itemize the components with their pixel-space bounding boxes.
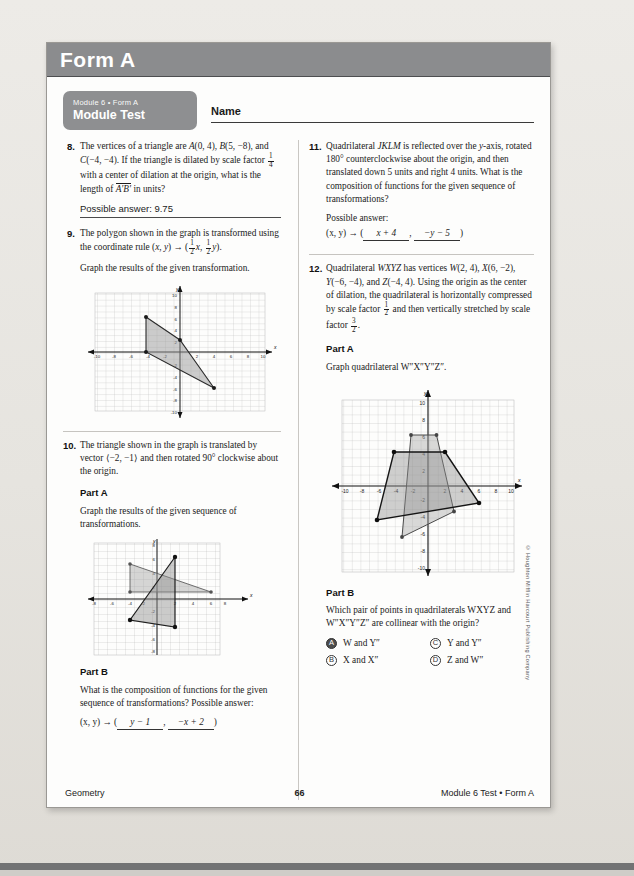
q8-l3a: factor [243,156,267,166]
right-column: 11. Quadrilateral JKLM is reflected over… [306,140,534,800]
question-11-number: 11. [309,140,326,247]
q11-answer-blank-1[interactable]: x + 4 [363,227,409,241]
svg-text:-6: -6 [377,488,382,494]
svg-text:10: 10 [172,293,177,298]
column-divider [298,140,299,800]
graph-question-9[interactable]: x y -10-8-6 -4-2 246 810 [80,282,281,422]
svg-text:10: 10 [508,488,514,494]
svg-text:-8: -8 [151,649,155,654]
question-10-text: The triangle shown in the graph is trans… [80,439,281,479]
svg-text:-10: -10 [418,565,425,571]
name-input[interactable] [211,122,534,123]
q9-l1: The polygon shown in the graph is transf… [80,228,256,238]
question-12-number: 12. [309,262,326,671]
bottom-band-light [0,870,634,876]
svg-text:-4: -4 [128,601,132,606]
choice-C-label: Y and Y″ [447,637,482,650]
q8-l2a: and [255,141,268,151]
q8-l1a: The vertices of a triangle are [80,141,189,151]
copyright-notice: © Houghton Mifflin Harcourt Publishing C… [525,545,531,680]
q9-l2c: ). [216,243,221,253]
q10-answer-blank-1[interactable]: y − 1 [117,716,163,730]
q8-Cc: (−4, −4). If the triangle is dilated by … [86,156,241,166]
form-header-bar: Form A [47,43,550,77]
question-12-partB-label: Part B [326,586,534,599]
q10-l1: The triangle shown in the graph is trans… [80,440,257,450]
name-label: Name [211,105,241,117]
q10-pb1: What is the composition of functions for… [80,685,267,695]
q10-l2: vector ⟨−2, −1⟩ and then rotated 90° clo… [80,453,255,463]
svg-text:8: 8 [495,488,498,494]
q8-frac-den: 4 [268,162,274,170]
svg-text:-4: -4 [146,354,150,359]
q12-frac-1: 12 [384,302,390,318]
g10-x-label: x [249,592,253,598]
svg-text:-10: -10 [341,488,348,494]
q12-l5b: . [358,320,360,330]
q12-Yc: (−6, −4), and [331,277,382,287]
q11-jklm: JKLM [377,141,400,151]
question-12: 12. Quadrilateral WXYZ has vertices W(2,… [309,262,534,671]
question-9-number: 9. [63,227,80,424]
question-12-partB-text: Which pair of points in quadrilaterals W… [326,604,534,630]
question-8-number: 8. [63,140,80,220]
question-8-answer[interactable]: Possible answer: 9.75 [80,202,281,218]
choice-A[interactable]: A W and Y″ [326,637,430,650]
question-10-partB-label: Part B [80,665,281,678]
q11-rule-prefix: (x, y) → ( [326,228,363,238]
choice-C[interactable]: C Y and Y″ [430,637,534,650]
page-background: Form A Module 6 • Form A Module Test Nam… [0,0,634,876]
question-9: 9. The polygon shown in the graph is tra… [63,227,281,424]
svg-text:-6: -6 [129,354,133,359]
q11-l1a: Quadrilateral [326,141,377,151]
q11-answer-blank-2[interactable]: −y − 5 [414,227,460,241]
choice-B-label: X and X″ [343,654,378,667]
graph-question-12[interactable]: x y -10-8-6 -4-2 246 810 [326,380,534,578]
form-title: Form A [60,48,136,72]
q10-pa2: transformations. [80,519,141,529]
footer-subject: Geometry [65,788,220,798]
q10-answer-blank-2[interactable]: −x + 2 [168,716,214,730]
choice-C-bubble[interactable]: C [430,638,441,649]
question-8-text: The vertices of a triangle are A(0, 4), … [80,140,281,196]
two-column-layout: 8. The vertices of a triangle are A(0, 4… [63,140,534,800]
question-10-partB-text: What is the composition of functions for… [80,684,281,710]
q12-f1d: 2 [384,310,390,318]
q8-fraction: 14 [268,153,274,169]
choice-B[interactable]: B X and X″ [326,654,430,667]
q12-Xc: (6, −2), [488,263,516,273]
q8-l3b: with a center of dilation at the origin, [80,170,218,180]
worksheet-page: Form A Module 6 • Form A Module Test Nam… [46,42,551,808]
choice-A-bubble[interactable]: A [326,638,337,649]
page-footer: Geometry 66 Module 6 Test • Form A [47,778,552,808]
question-10-body: The triangle shown in the graph is trans… [80,439,281,736]
module-badge-subtitle: Module 6 • Form A [73,98,187,107]
q8-l4b: in units? [131,184,165,194]
svg-text:8: 8 [224,601,227,606]
q11-l1c: -axis, [483,141,503,151]
question-10-partA-label: Part A [80,486,281,499]
q12-pb1: Which pair of points in quadrilaterals W… [326,605,511,615]
svg-text:10: 10 [420,400,426,406]
choice-D-bubble[interactable]: D [430,655,441,666]
graph-question-10[interactable]: x y -8-6-4-2 2468 8642 -2-4-6-8 [80,537,281,657]
question-9-body: The polygon shown in the graph is transf… [80,227,281,424]
q12-l1a: Quadrilateral [326,263,377,273]
q9-frac-x: 12 [189,240,195,256]
choice-D[interactable]: D Z and W″ [430,654,534,667]
choice-B-bubble[interactable]: B [326,655,337,666]
question-12-partA-label: Part A [326,342,534,355]
svg-text:6: 6 [478,488,481,494]
question-10-rule: (x, y) → (y − 1, −x + 2) [80,716,281,730]
g12-x-label: x [517,477,521,483]
question-9-text: The polygon shown in the graph is transf… [80,227,281,256]
svg-text:-6: -6 [110,601,114,606]
svg-text:-4: -4 [173,375,177,380]
q11-l1b: is reflected over the [401,141,479,151]
question-12-choices: A W and Y″ C Y and Y″ B X and X″ [326,637,534,671]
svg-text:-8: -8 [112,354,116,359]
module-badge-title: Module Test [73,108,187,122]
svg-text:-8: -8 [92,601,96,606]
left-column: 8. The vertices of a triangle are A(0, 4… [63,140,291,800]
q8-Ac: (0, 4), [195,141,220,151]
